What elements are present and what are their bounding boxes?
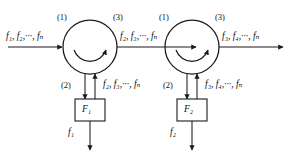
filter-label-2: F₂ (184, 105, 193, 115)
port-label-1-in: (1) (57, 13, 67, 22)
port-label-2-down: (2) (163, 81, 173, 90)
circulator-arc-icon-1 (74, 50, 106, 61)
circulator-node-1 (63, 20, 117, 74)
port-label-1-down: (2) (61, 81, 71, 90)
diagram-vector-layer (0, 0, 290, 158)
output-signal-label-1: f₂, f₃,···, fₙ (120, 32, 157, 42)
dropped-signal-label-2: f₂ (170, 128, 176, 138)
port-label-2-in: (1) (159, 13, 169, 22)
dropped-signal-label-1: f₁ (68, 128, 74, 138)
input-signal-label-1: f₁, f₂,···, fₙ (6, 32, 43, 42)
filter-label-1: F₁ (82, 105, 91, 115)
reflected-signal-label-1: f₂, f₃,···, fₙ (103, 80, 140, 90)
port-label-2-out: (3) (215, 13, 225, 22)
output-signal-label-2: f₃, f₄,···, fₙ (222, 32, 259, 42)
reflected-signal-label-2: f₃, f₄,···, fₙ (205, 80, 242, 90)
diagram-canvas: (1) (3) f₁, f₂,···, fₙ f₂, f₃,···, fₙ (2… (0, 0, 290, 158)
port-label-1-out: (3) (113, 13, 123, 22)
circulator-arc-icon-2 (176, 50, 208, 61)
